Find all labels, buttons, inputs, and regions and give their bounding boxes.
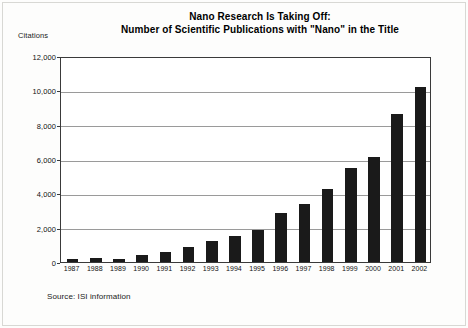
bar: [183, 247, 195, 262]
y-tick-label: 0: [4, 259, 56, 268]
y-tick-mark: [57, 57, 60, 58]
bar: [206, 241, 218, 262]
y-tick-mark: [57, 194, 60, 195]
y-tick-mark: [57, 126, 60, 127]
x-tick-label: 1992: [176, 265, 199, 272]
x-tick-label: 2002: [408, 265, 431, 272]
y-axis-title: Citations: [18, 31, 48, 40]
x-tick-label: 1989: [106, 265, 129, 272]
x-tick-label: 1996: [269, 265, 292, 272]
x-tick-label: 1999: [338, 265, 361, 272]
chart-title: Nano Research Is Taking Off: Number of S…: [60, 10, 460, 36]
bar: [113, 259, 125, 262]
y-tick-mark: [57, 263, 60, 264]
chart-figure: Nano Research Is Taking Off: Number of S…: [0, 0, 468, 328]
source-note: Source: ISI information: [47, 292, 131, 301]
y-tick-label: 10,000: [4, 87, 56, 96]
x-tick-label: 2000: [361, 265, 384, 272]
bars-layer: [61, 58, 430, 262]
bar: [322, 189, 334, 262]
bar: [391, 114, 403, 262]
plot-area: [60, 57, 431, 263]
bar: [345, 168, 357, 262]
x-tick-label: 1997: [292, 265, 315, 272]
x-tick-label: 1991: [153, 265, 176, 272]
bar: [67, 259, 79, 262]
bar: [90, 258, 102, 262]
y-tick-label: 8,000: [4, 122, 56, 131]
x-tick-label: 2001: [385, 265, 408, 272]
x-tick-label: 1987: [60, 265, 83, 272]
x-tick-label: 1990: [130, 265, 153, 272]
x-tick-label: 1988: [83, 265, 106, 272]
x-tick-label: 1998: [315, 265, 338, 272]
bar: [136, 255, 148, 262]
y-tick-label: 2,000: [4, 225, 56, 234]
y-tick-mark: [57, 229, 60, 230]
y-tick-label: 6,000: [4, 156, 56, 165]
bar: [368, 157, 380, 262]
y-tick-mark: [57, 160, 60, 161]
chart-title-line-1: Nano Research Is Taking Off:: [60, 10, 460, 23]
bar: [275, 213, 287, 262]
x-axis-labels: 1987198819891990199119921993199419951996…: [60, 265, 431, 279]
y-tick-mark: [57, 91, 60, 92]
bar: [160, 252, 172, 262]
x-tick-label: 1995: [246, 265, 269, 272]
y-tick-label: 4,000: [4, 190, 56, 199]
y-tick-label: 12,000: [4, 53, 56, 62]
bar: [415, 87, 427, 262]
bar: [252, 230, 264, 262]
x-tick-label: 1993: [199, 265, 222, 272]
chart-title-line-2: Number of Scientific Publications with "…: [60, 23, 460, 36]
bar: [229, 236, 241, 262]
x-tick-label: 1994: [222, 265, 245, 272]
bar: [299, 204, 311, 262]
